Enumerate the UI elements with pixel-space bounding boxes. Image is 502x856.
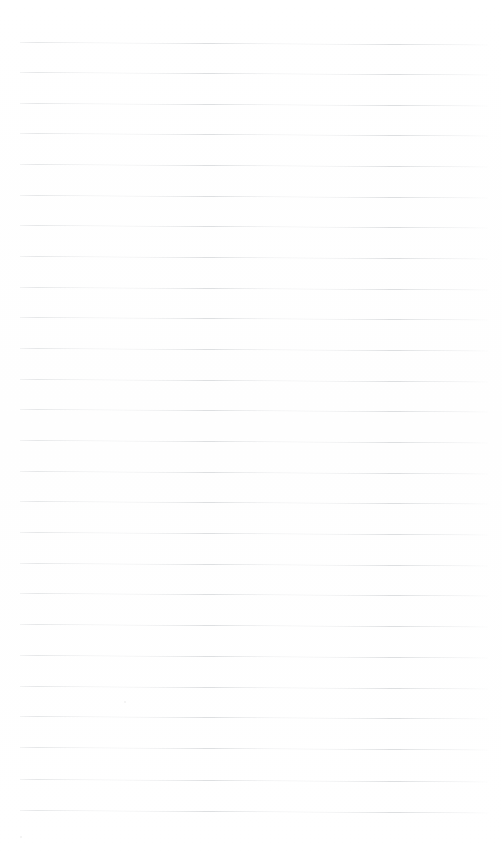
rule-line	[20, 164, 488, 168]
rule-line	[20, 42, 488, 46]
rule-line	[20, 440, 488, 444]
rule-line	[20, 747, 488, 751]
rule-line	[20, 686, 488, 690]
rule-line	[20, 563, 488, 567]
rule-line	[20, 103, 488, 107]
rule-line	[20, 287, 488, 291]
ruled-writing-area[interactable]	[0, 0, 502, 856]
rule-line	[20, 348, 488, 352]
rule-line	[20, 624, 488, 628]
rule-line	[20, 501, 488, 505]
rule-line	[20, 72, 488, 76]
rule-line	[20, 593, 488, 597]
rule-line	[20, 779, 488, 783]
rule-line	[20, 379, 488, 383]
rule-line	[20, 655, 488, 659]
rule-line	[20, 471, 488, 475]
rule-line	[20, 133, 488, 137]
rule-line	[20, 716, 488, 720]
rule-line	[20, 532, 488, 536]
rule-line	[20, 256, 488, 260]
scan-speck	[124, 701, 126, 703]
rule-line	[20, 409, 488, 413]
rule-line	[20, 317, 488, 321]
rule-line	[20, 225, 488, 229]
rule-line	[20, 810, 488, 814]
notebook-page	[0, 0, 502, 856]
scan-speck	[20, 836, 22, 838]
rule-line	[20, 195, 488, 199]
